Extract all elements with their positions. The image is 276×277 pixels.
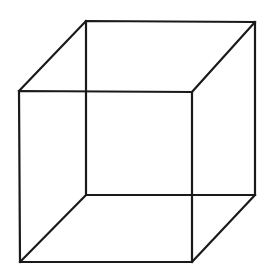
necker-cube-figure xyxy=(0,0,276,277)
top-left-connector-edge xyxy=(19,21,86,91)
figure-canvas xyxy=(0,0,276,277)
top-right-connector-edge xyxy=(192,22,255,92)
back-face-square xyxy=(86,21,255,195)
bottom-left-connector-edge xyxy=(20,195,86,262)
bottom-right-connector-edge xyxy=(192,195,255,262)
